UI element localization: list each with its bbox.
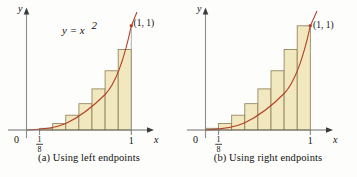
tick-label-one: 1 bbox=[129, 135, 134, 146]
bar bbox=[118, 49, 131, 130]
y-axis-label: y bbox=[196, 3, 202, 14]
point-marker-1-1 bbox=[130, 24, 133, 27]
x-axis-arrow-icon bbox=[326, 127, 333, 133]
plot-svg-left: y x 0 1 8 1 y = x 2 (1, 1) bbox=[0, 0, 178, 152]
bar bbox=[232, 115, 245, 130]
equation-label: y = x bbox=[61, 24, 85, 36]
plot-svg-right: y x 0 1 8 1 (1, 1) bbox=[179, 0, 357, 152]
point-marker-1-1 bbox=[309, 24, 312, 27]
caption-right-endpoints: (b) Using right endpoints bbox=[179, 152, 357, 163]
x-axis-label: x bbox=[153, 134, 159, 145]
origin-label: 0 bbox=[14, 134, 19, 145]
bars-left bbox=[40, 49, 132, 130]
bar bbox=[284, 49, 297, 130]
y-axis-label: y bbox=[17, 3, 23, 14]
bar bbox=[297, 26, 310, 130]
x-axis-label: x bbox=[332, 134, 338, 145]
tick-label-one-eighth-denominator: 8 bbox=[217, 145, 221, 153]
tick-label-one-eighth-denominator: 8 bbox=[38, 145, 42, 153]
bar bbox=[258, 89, 271, 130]
tick-label-one-eighth-numerator: 1 bbox=[38, 135, 42, 144]
tick-label-one-eighth-numerator: 1 bbox=[217, 135, 221, 144]
y-axis-arrow-icon bbox=[24, 8, 30, 15]
plot-left-endpoints: y x 0 1 8 1 y = x 2 (1, 1) bbox=[0, 0, 178, 152]
point-label: (1, 1) bbox=[313, 20, 334, 31]
caption-left-endpoints: (a) Using left endpoints bbox=[0, 152, 178, 163]
equation-exponent: 2 bbox=[92, 19, 98, 31]
panel-right-endpoints: y x 0 1 8 1 (1, 1) (b) Using right endpo… bbox=[179, 0, 357, 177]
plot-right-endpoints: y x 0 1 8 1 (1, 1) bbox=[179, 0, 357, 152]
x-axis-arrow-icon bbox=[147, 127, 154, 133]
equation-label-group: y = x 2 bbox=[61, 19, 98, 36]
bar bbox=[105, 71, 118, 130]
panel-left-endpoints: y x 0 1 8 1 y = x 2 (1, 1) (a) Using lef… bbox=[0, 0, 178, 177]
tick-label-one: 1 bbox=[308, 135, 313, 146]
riemann-sum-figure: y x 0 1 8 1 y = x 2 (1, 1) (a) Using lef… bbox=[0, 0, 357, 177]
y-axis-arrow-icon bbox=[203, 8, 209, 15]
point-label: (1, 1) bbox=[134, 18, 155, 29]
origin-label: 0 bbox=[193, 134, 198, 145]
bar bbox=[92, 89, 105, 130]
